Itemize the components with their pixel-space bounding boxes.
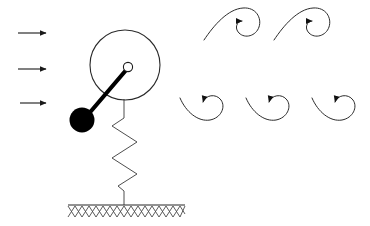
vortex-top-1-icon bbox=[204, 8, 260, 40]
flow-arrows-group bbox=[18, 33, 46, 103]
spring-coils bbox=[112, 118, 137, 191]
oscillator-group bbox=[70, 30, 161, 133]
upper-vortex-row bbox=[204, 8, 330, 40]
vortex-bottom-2-icon bbox=[246, 96, 289, 121]
pendulum-mass-icon bbox=[70, 108, 95, 133]
lower-vortex-row bbox=[180, 96, 355, 121]
diagram-canvas bbox=[0, 0, 370, 226]
vortex-bottom-3-icon bbox=[312, 96, 355, 121]
vortex-top-2-icon bbox=[274, 8, 330, 40]
pivot-hub-icon bbox=[123, 62, 132, 71]
vortex-induced-vibration-diagram bbox=[0, 0, 370, 226]
vortex-bottom-1-icon bbox=[180, 96, 223, 121]
ground-hatching bbox=[68, 206, 185, 217]
